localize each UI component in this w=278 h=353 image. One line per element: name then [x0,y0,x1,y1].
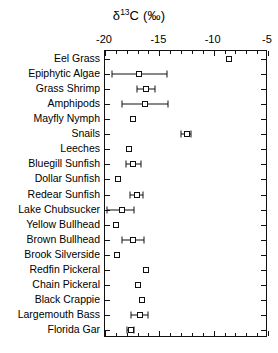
x-tick-major-top [268,51,269,56]
error-bar-cap [154,85,155,92]
data-point-marker [134,192,140,198]
y-tick-right [261,285,266,286]
error-bar-cap [134,206,135,213]
chart-title-element: C [130,8,140,23]
error-bar-cap [129,191,130,198]
x-tick-major-bottom [214,331,215,336]
y-tick-right [261,210,266,211]
y-tick-right [261,270,266,271]
y-tick-left [105,119,110,120]
category-label: Black Crappie [35,293,100,305]
x-tick-minor-top [235,51,236,54]
y-tick-right [261,164,266,165]
category-label: Grass Shrimp [36,82,100,94]
x-tick-minor-top [257,51,258,54]
data-point-marker [143,267,149,273]
y-tick-left [105,104,110,105]
y-tick-left [105,330,110,331]
y-tick-left [105,300,110,301]
x-tick-major-bottom [268,331,269,336]
category-label: Amphipods [47,97,100,109]
category-label: Redfin Pickeral [29,263,100,275]
y-tick-right [261,89,266,90]
x-tick-minor-top [170,51,171,54]
y-tick-right [261,225,266,226]
data-point-marker [114,252,120,258]
x-tick-minor-bottom [203,333,204,336]
category-label: Redear Sunfish [28,188,100,200]
category-label: Bluegill Sunfish [28,157,100,169]
category-label: Lake Chubsucker [18,203,100,215]
category-label: Epiphytic Algae [28,67,100,79]
data-point-marker [142,101,148,107]
y-tick-right [261,315,266,316]
data-point-marker [115,176,121,182]
x-tick-minor-top [192,51,193,54]
data-point-marker [126,146,132,152]
x-tick-minor-top [225,51,226,54]
y-tick-left [105,89,110,90]
category-label: Dollar Sunfish [35,172,100,184]
data-point-marker [139,297,145,303]
x-tick-minor-bottom [170,333,171,336]
y-tick-left [105,134,110,135]
y-tick-right [261,104,266,105]
y-tick-right [261,255,266,256]
error-bar-cap [125,161,126,168]
category-label: Chain Pickeral [32,278,100,290]
data-point-marker [226,56,232,62]
x-tick-minor-top [203,51,204,54]
error-bar-cap [111,70,112,77]
category-label: Florida Gar [47,323,100,335]
plot-area [104,50,267,337]
category-label: Snails [71,127,100,139]
y-tick-right [261,330,266,331]
y-tick-right [261,300,266,301]
x-tick-minor-bottom [116,333,117,336]
x-axis-tick-label: -15 [150,33,166,45]
x-tick-major-top [159,51,160,56]
data-point-marker [137,312,143,318]
category-label: Mayfly Nymph [33,112,100,124]
y-tick-left [105,315,110,316]
data-point-marker [135,282,141,288]
data-point-marker [130,116,136,122]
y-tick-left [105,285,110,286]
x-tick-major-top [105,51,106,56]
error-bar-cap [148,312,149,319]
x-tick-minor-bottom [235,333,236,336]
y-tick-right [261,134,266,135]
category-label: Eel Grass [54,52,100,64]
x-tick-minor-bottom [192,333,193,336]
category-label: Yellow Bullhead [26,218,100,230]
y-tick-left [105,74,110,75]
error-bar-cap [122,236,123,243]
y-tick-left [105,59,110,60]
error-bar-cap [131,312,132,319]
x-tick-minor-top [127,51,128,54]
x-tick-minor-top [148,51,149,54]
x-tick-minor-top [181,51,182,54]
data-point-marker [136,71,142,77]
error-bar-cap [144,236,145,243]
y-tick-left [105,270,110,271]
y-tick-left [105,195,110,196]
y-tick-right [261,195,266,196]
error-bar-cap [190,131,191,138]
error-bar-cap [107,206,108,213]
data-point-marker [143,86,149,92]
y-tick-left [105,255,110,256]
x-axis-tick-label: -10 [205,33,221,45]
data-point-marker [113,222,119,228]
x-axis-tick-label: -5 [262,33,272,45]
data-point-marker [130,237,136,243]
x-tick-minor-top [138,51,139,54]
y-tick-right [261,240,266,241]
chart-title-units: (‰) [143,8,165,23]
chart-title: δ13C (‰) [0,7,278,23]
x-tick-minor-bottom [257,333,258,336]
y-tick-left [105,149,110,150]
category-label: Largemouth Bass [18,308,100,320]
category-label: Brook Silverside [24,248,100,260]
x-tick-major-bottom [105,331,106,336]
